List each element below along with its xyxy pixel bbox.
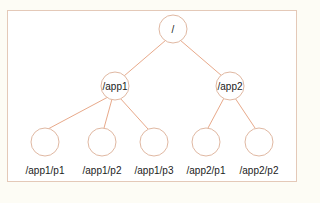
node-app2-p1-label: /app2/p1: [187, 165, 226, 176]
node-app2-p2-circle: [245, 128, 273, 156]
edge-app1-p3: [120, 98, 148, 129]
edge-app2-p2: [235, 98, 255, 128]
edge-app1-p1: [48, 97, 108, 129]
node-app1-label: /app1: [102, 81, 127, 92]
node-app1-p1-label: /app1/p1: [26, 165, 65, 176]
node-app2-label: /app2: [217, 81, 242, 92]
node-app1-p2-circle: [88, 128, 116, 156]
node-app1-p3-label: /app1/p3: [135, 165, 174, 176]
node-app2-p2-label: /app2/p2: [240, 165, 279, 176]
node-app1-p2-label: /app1/p2: [83, 165, 122, 176]
edge-root-app1: [124, 40, 166, 76]
node-app2-p1-circle: [192, 128, 220, 156]
node-app1-p3-circle: [140, 128, 168, 156]
edge-app1-p2: [104, 99, 112, 128]
edge-app2-p1: [208, 98, 224, 128]
node-root-label: /: [172, 24, 175, 35]
node-app1-p1-circle: [31, 128, 59, 156]
edge-root-app2: [180, 40, 222, 76]
